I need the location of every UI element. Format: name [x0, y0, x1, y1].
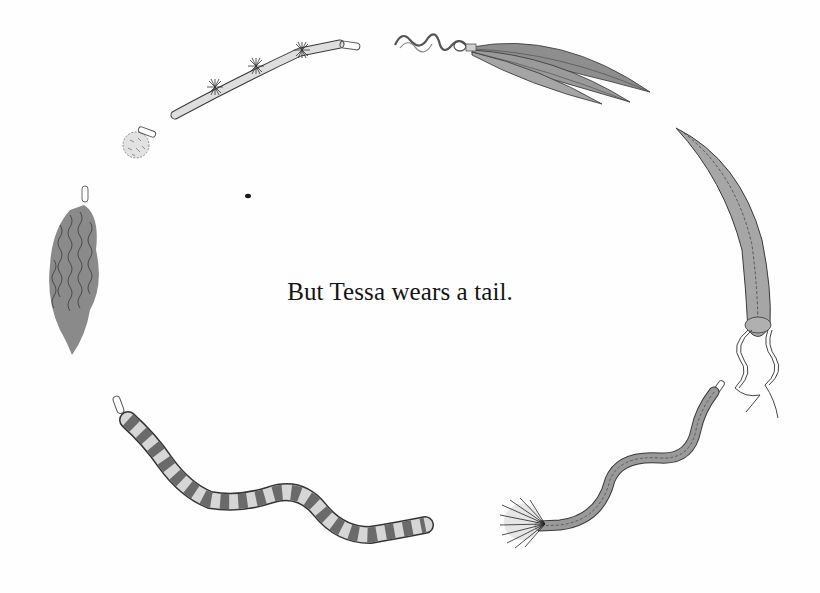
striped-tail-icon [112, 395, 425, 535]
stuffed-tail-icon [676, 128, 779, 418]
book-page: But Tessa wears a tail. [0, 0, 820, 593]
fur-tail-icon [49, 186, 99, 355]
feather-tail-icon [395, 34, 650, 104]
tufted-tail-icon [500, 380, 725, 548]
ink-speck [245, 194, 251, 198]
pompom-tail-icon [123, 126, 156, 158]
caption-container: But Tessa wears a tail. [0, 278, 820, 306]
stick-tail-icon [175, 41, 360, 115]
page-caption: But Tessa wears a tail. [287, 278, 513, 305]
